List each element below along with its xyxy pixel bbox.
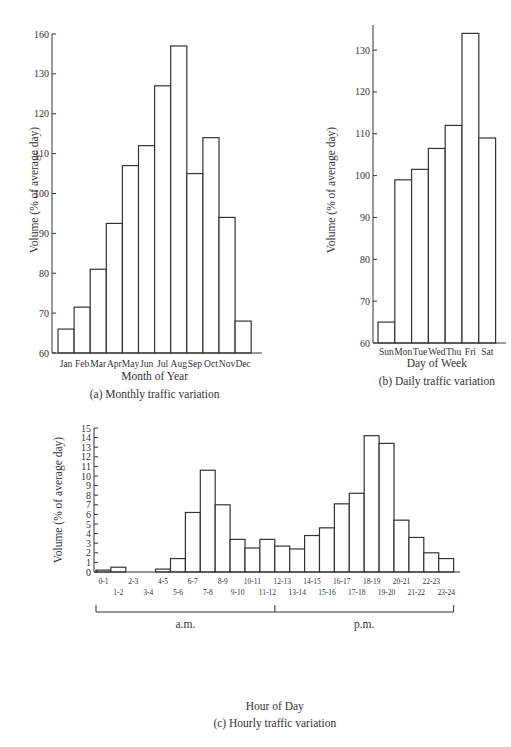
y-tick-label: 6 (86, 509, 91, 520)
y-tick-label: 100 (355, 170, 370, 181)
bar-Wed (428, 148, 445, 343)
bar-Dec (235, 321, 251, 353)
y-tick-label: 7 (86, 499, 91, 510)
chart-hourly: 0123456789101112131415Volume (% of avera… (52, 423, 460, 731)
bar-13-14 (290, 549, 305, 572)
y-tick-label: 120 (34, 108, 49, 119)
x-tick-label: 7-8 (203, 588, 213, 597)
y-tick-label: 120 (355, 86, 370, 97)
x-tick-label: 23-24 (437, 588, 455, 597)
bar-6-7 (185, 512, 200, 572)
x-tick-label: Tue (413, 347, 427, 357)
x-tick-label: Jul (157, 359, 168, 369)
am-label: a.m. (175, 618, 195, 630)
chart-monthly: 60708090100110120130160Volume (% of aver… (28, 29, 262, 402)
bar-16-17 (334, 504, 349, 572)
pm-label: p.m. (354, 618, 375, 631)
x-tick-label: Feb (75, 359, 90, 369)
x-tick-label: Sep (188, 359, 203, 369)
bar-Thu (445, 125, 462, 343)
x-tick-label: Oct (204, 359, 218, 369)
bar-Sep (187, 174, 203, 353)
y-tick-label: 3 (86, 538, 91, 549)
bar-Sun (378, 322, 395, 343)
bar-Oct (203, 138, 219, 353)
x-tick-label: Jun (140, 359, 153, 369)
y-tick-label: 110 (355, 128, 370, 139)
x-tick-label: 8-9 (218, 577, 228, 586)
x-tick-label: 11-12 (259, 588, 276, 597)
y-tick-label: 9 (86, 480, 91, 491)
bar-9-10 (230, 539, 245, 572)
traffic-variation-figure: 60708090100110120130160Volume (% of aver… (0, 0, 511, 747)
bar-Tue (412, 169, 429, 343)
x-axis-label: Month of Year (121, 370, 188, 382)
bar-23-24 (439, 559, 454, 572)
x-tick-label: 15-16 (318, 588, 336, 597)
x-tick-label: 22-23 (423, 577, 441, 586)
x-tick-label: Nov (219, 359, 236, 369)
y-tick-label: 13 (81, 442, 91, 453)
y-tick-label: 10 (81, 471, 91, 482)
x-tick-label: May (122, 359, 140, 369)
bar-8-9 (215, 505, 230, 572)
bar-22-23 (424, 553, 439, 572)
y-tick-label: 15 (81, 423, 91, 434)
y-tick-label: 130 (355, 45, 370, 56)
x-tick-label: 10-11 (244, 577, 261, 586)
y-tick-label: 4 (86, 528, 91, 539)
x-tick-label: 3-4 (143, 588, 153, 597)
bar-Jan (58, 329, 74, 353)
x-tick-label: Sun (379, 347, 394, 357)
y-tick-label: 130 (34, 68, 49, 79)
bar-Mon (395, 180, 412, 343)
y-tick-label: 60 (360, 338, 370, 349)
bar-20-21 (394, 520, 409, 572)
y-tick-label: 60 (39, 348, 49, 359)
x-tick-label: 0-1 (98, 577, 108, 586)
y-tick-label: 80 (39, 268, 49, 279)
y-tick-label: 8 (86, 490, 91, 501)
bar-1-2 (111, 567, 126, 572)
x-tick-label: Thu (446, 347, 462, 357)
y-tick-label: 14 (81, 432, 91, 443)
x-tick-label: 13-14 (288, 588, 306, 597)
bar-19-20 (379, 443, 394, 572)
bar-15-16 (320, 528, 335, 572)
x-tick-label: 6-7 (188, 577, 198, 586)
x-tick-label: 2-3 (128, 577, 138, 586)
y-tick-label: 90 (360, 212, 370, 223)
chart-daily: 60708090100110120130Volume (% of average… (325, 25, 506, 388)
x-tick-label: 18-19 (363, 577, 381, 586)
x-tick-label: 14-15 (303, 577, 321, 586)
y-tick-label: 12 (81, 451, 91, 462)
x-tick-label: Sat (481, 347, 494, 357)
x-tick-label: Mar (90, 359, 107, 369)
y-axis-label: Volume (% of average day) (52, 437, 65, 563)
bar-May (122, 166, 138, 353)
x-tick-label: 4-5 (158, 577, 168, 586)
y-tick-label: 70 (360, 296, 370, 307)
y-axis-label: Volume (% of average day) (28, 127, 41, 253)
y-axis-label: Volume (% of average day) (325, 127, 338, 253)
bar-12-13 (275, 546, 290, 572)
x-tick-label: Mon (394, 347, 412, 357)
chart-caption: (c) Hourly traffic variation (213, 717, 336, 730)
x-tick-label: Dec (236, 359, 251, 369)
bar-Feb (74, 307, 90, 353)
x-tick-label: 5-6 (173, 588, 183, 597)
y-tick-label: 90 (39, 228, 49, 239)
x-tick-label: 19-20 (378, 588, 396, 597)
x-tick-label: Aug (171, 359, 188, 369)
bar-Apr (106, 223, 122, 353)
bar-Nov (219, 217, 235, 353)
bar-Mar (90, 269, 106, 353)
y-tick-label: 80 (360, 254, 370, 265)
y-tick-label: 11 (81, 461, 91, 472)
bar-21-22 (409, 537, 424, 572)
x-tick-label: 21-22 (408, 588, 426, 597)
y-tick-label: 160 (34, 29, 49, 40)
x-tick-label: 9-10 (231, 588, 245, 597)
x-tick-label: Apr (107, 359, 123, 369)
x-tick-label: 12-13 (274, 577, 292, 586)
